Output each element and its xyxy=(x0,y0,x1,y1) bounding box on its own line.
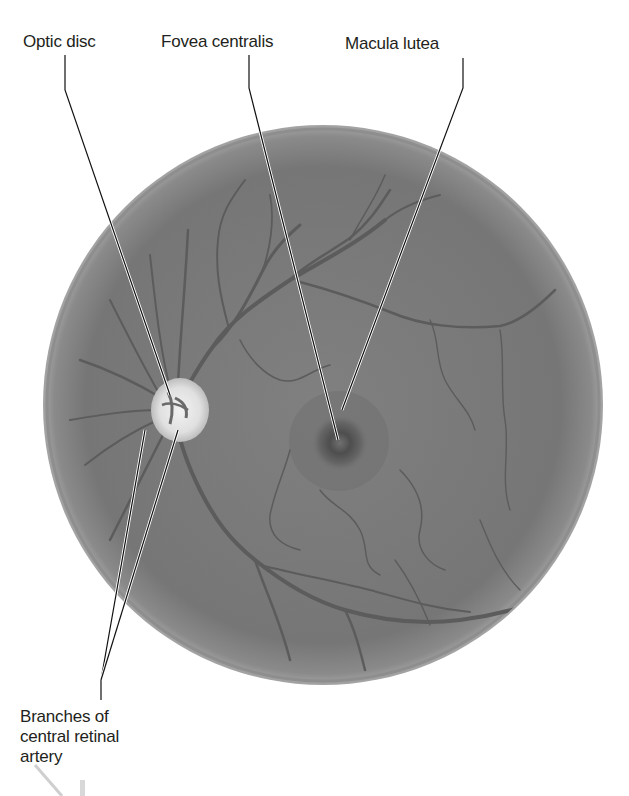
label-branches-line-2: central retinal xyxy=(20,727,170,747)
label-optic-disc: Optic disc xyxy=(23,32,96,52)
scan-artifact xyxy=(35,765,62,796)
scan-artifact xyxy=(80,780,85,796)
optic-disc xyxy=(151,378,209,442)
fundus-illustration xyxy=(0,0,629,796)
label-macula-lutea: Macula lutea xyxy=(345,34,439,54)
label-branches-central-retinal-artery: Branches of central retinal artery xyxy=(20,707,170,767)
label-branches-line-1: Branches of xyxy=(20,707,170,727)
label-fovea-centralis: Fovea centralis xyxy=(161,32,273,52)
fovea-centralis xyxy=(289,391,389,491)
retina-diagram: Optic disc Fovea centralis Macula lutea … xyxy=(0,0,629,796)
label-branches-line-3: artery xyxy=(20,747,170,767)
